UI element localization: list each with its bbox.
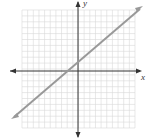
coordinate-plane (0, 0, 147, 139)
y-axis-label: y (83, 0, 87, 8)
x-axis-label: x (141, 72, 145, 82)
x-axis-left-arrow-icon (10, 69, 16, 74)
y-axis-down-arrow-icon (76, 132, 81, 138)
y-axis-up-arrow-icon (76, 1, 81, 7)
